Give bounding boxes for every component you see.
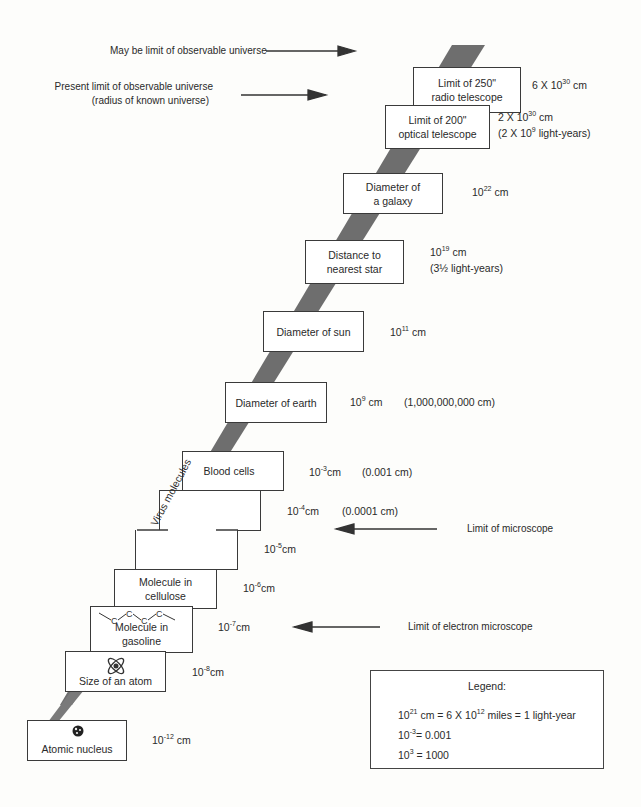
note-virus-upper: (0.0001 cm) <box>342 504 398 518</box>
note-earth: (1,000,000,000 cm) <box>404 395 495 409</box>
hydrocarbon-chain-icon: C C C C <box>97 609 187 625</box>
svg-text:C: C <box>111 616 118 625</box>
legend-rows: 1021 cm = 6 X 1012 miles = 1 light-year … <box>398 705 576 765</box>
step-label-line: gasoline <box>122 634 161 648</box>
size-virus-lower: 10-5cm <box>264 542 296 556</box>
legend-row-light-year: 1021 cm = 6 X 1012 miles = 1 light-year <box>398 705 576 725</box>
svg-text:C: C <box>141 616 148 625</box>
step-label-line: Molecule in <box>139 575 192 589</box>
size-radio-telescope: 6 X 1030 cm <box>532 78 587 92</box>
step-nucleus: Atomic nucleus <box>27 720 127 761</box>
size-nucleus: 10-12 cm <box>152 733 191 747</box>
step-atom: Size of an atom <box>65 651 166 692</box>
legend-row-negative-exponent: 10-3= 0.001 <box>398 725 576 745</box>
size-nearest-star: 1019 cm (3½ light-years) <box>430 245 503 275</box>
note-blood-cells: (0.001 cm) <box>362 465 412 479</box>
step-cellulose: Molecule in cellulose <box>114 569 217 609</box>
size-earth: 109 cm <box>350 395 383 409</box>
size-atom: 10-8cm <box>192 665 224 679</box>
step-label-line: cellulose <box>145 589 186 603</box>
size-sun: 1011 cm <box>390 325 426 339</box>
legend-box: Legend: 1021 cm = 6 X 1012 miles = 1 lig… <box>370 670 604 769</box>
size-gasoline: 10-7cm <box>218 620 250 634</box>
size-virus-upper: 10-4cm <box>287 504 319 518</box>
svg-text:C: C <box>156 609 163 619</box>
size-cellulose: 10-6cm <box>243 581 275 595</box>
nucleus-icon <box>72 725 84 737</box>
atom-icon <box>105 655 127 677</box>
legend-title: Legend: <box>371 680 603 692</box>
step-gasoline: C C C C Molecule in gasoline <box>90 606 193 653</box>
step-label-line: Atomic nucleus <box>41 742 112 756</box>
legend-row-positive-exponent: 103 = 1000 <box>398 745 576 765</box>
size-galaxy: 1022 cm <box>472 185 508 199</box>
size-optical-telescope: 2 X 1030 cm (2 X 109 light-years) <box>498 110 591 140</box>
svg-text:C: C <box>126 609 133 619</box>
size-blood-cells: 10-3cm <box>309 465 341 479</box>
